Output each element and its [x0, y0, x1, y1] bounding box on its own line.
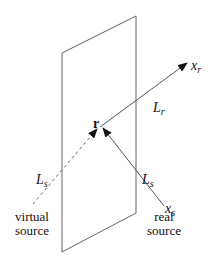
x-r-label: xr	[190, 58, 201, 75]
incident-ray	[103, 128, 164, 206]
point-r-label: r	[93, 116, 99, 131]
virtual-ray	[33, 129, 97, 204]
virtual-source-label-1: virtual	[15, 209, 49, 224]
L-r-label: Lr	[152, 100, 165, 117]
L-s-right-label: Ls	[141, 172, 154, 189]
reflecting-plane	[62, 16, 136, 252]
real-source-label-2: source	[147, 223, 181, 238]
L-s-left-label: Ls	[35, 172, 48, 189]
reflected-ray	[100, 63, 187, 127]
reflection-diagram: r xr Lr Ls Ls xs virtual source real sou…	[0, 0, 212, 262]
virtual-source-label-2: source	[15, 223, 49, 238]
real-source-label-1: real	[154, 209, 174, 224]
